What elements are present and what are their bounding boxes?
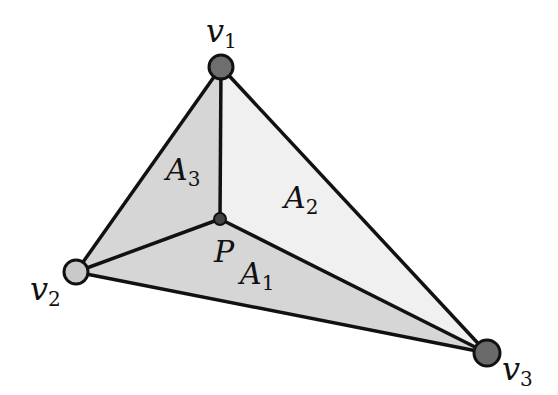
point-p-node [214,213,226,225]
edge-p-v1 [220,67,221,219]
vertex-v2-node [64,260,88,284]
vertex-v3-node [474,340,500,366]
label-v3: v3 [502,350,533,391]
barycentric-diagram: v1 v2 v3 P A1 A2 A3 [0,0,558,395]
label-v2: v2 [30,270,61,311]
label-v1: v1 [206,12,237,53]
label-p: P [213,234,235,269]
vertex-v1-node [209,55,233,79]
